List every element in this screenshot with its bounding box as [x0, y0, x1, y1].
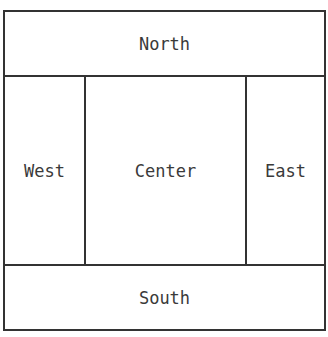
south-region: South: [5, 264, 324, 329]
east-region: East: [247, 77, 324, 264]
center-label: Center: [135, 161, 196, 181]
north-region: North: [5, 12, 324, 77]
east-label: East: [265, 161, 306, 181]
south-label: South: [139, 288, 190, 308]
west-label: West: [24, 161, 65, 181]
center-region: Center: [86, 77, 247, 264]
west-region: West: [5, 77, 86, 264]
border-layout-frame: North West Center East South: [3, 10, 326, 331]
north-label: North: [139, 34, 190, 54]
